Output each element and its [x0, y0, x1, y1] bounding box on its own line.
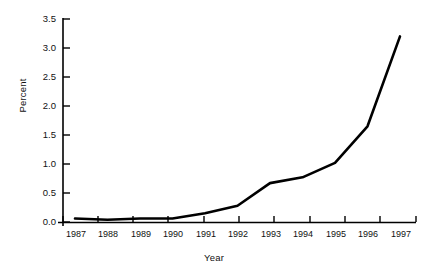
data-line-percent [75, 36, 400, 219]
plot-area [0, 0, 428, 277]
chart-container: Percent 3.5 3.0 2.5 2.0 1.5 1.0 0.5 0.0 … [0, 0, 428, 277]
y-tick-marks [63, 19, 70, 222]
